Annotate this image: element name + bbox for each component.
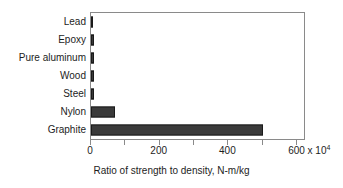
bar-row (91, 31, 304, 49)
bar-lead (91, 17, 93, 28)
bar-chart-figure: LeadEpoxyPure aluminumWoodSteelNylonGrap… (0, 0, 343, 188)
category-axis-labels: LeadEpoxyPure aluminumWoodSteelNylonGrap… (0, 13, 86, 139)
x-axis-title: Ratio of strength to density, N-m/kg (0, 165, 343, 176)
bar-pure-aluminum (91, 53, 94, 64)
x-tick-label-200: 200 (150, 145, 167, 156)
bar-nylon (91, 107, 115, 118)
bars-layer (91, 13, 304, 139)
bar-row (91, 85, 304, 103)
category-label-wood: Wood (60, 67, 86, 85)
category-label-steel: Steel (63, 85, 86, 103)
category-label-lead: Lead (64, 13, 86, 31)
bar-epoxy (91, 35, 94, 46)
bar-row (91, 67, 304, 85)
x-tick-label-600: 600 x 104 (288, 145, 330, 156)
category-label-graphite: Graphite (48, 121, 86, 139)
bar-steel (91, 89, 94, 100)
bar-graphite (91, 125, 263, 136)
category-label-pure-aluminum: Pure aluminum (19, 49, 86, 67)
category-label-nylon: Nylon (60, 103, 86, 121)
bar-row (91, 121, 304, 139)
bar-row (91, 103, 304, 121)
x-tick-label-400: 400 (219, 145, 236, 156)
x-axis-tick-labels: 0200400600 x 104 (0, 145, 343, 161)
x-tick-label-0: 0 (87, 145, 93, 156)
bar-wood (91, 71, 94, 82)
category-label-epoxy: Epoxy (58, 31, 86, 49)
bar-row (91, 49, 304, 67)
bar-row (91, 13, 304, 31)
